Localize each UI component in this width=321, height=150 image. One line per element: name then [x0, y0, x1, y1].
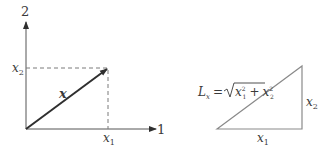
axis-2-label: 2 — [21, 4, 29, 19]
vector-length-diagram: 2 1 x x2 x1 Lx= x21+x22 x2 x1 — [0, 0, 321, 150]
x2-tick-label: x2 — [12, 61, 24, 77]
vector-x-label: x — [58, 86, 67, 101]
formula-radicand: x21+x22 — [235, 85, 274, 100]
axis-1-label: 1 — [157, 122, 165, 137]
length-formula: Lx= — [197, 85, 223, 101]
right-triangle: Lx= x21+x22 x2 x1 — [197, 66, 318, 147]
height-x2-label: x2 — [306, 95, 318, 111]
x1-tick-label: x1 — [103, 131, 115, 147]
coordinate-plot: 2 1 x x2 x1 — [12, 4, 165, 147]
base-x1-label: x1 — [257, 131, 269, 147]
